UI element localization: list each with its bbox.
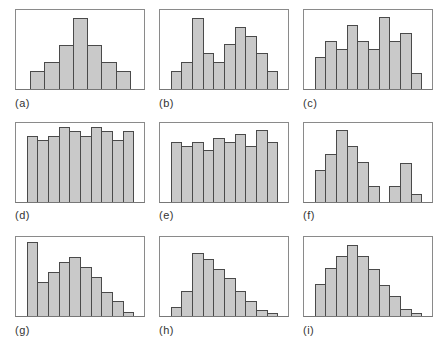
histogram-bar: [267, 142, 279, 202]
histogram-bar: [411, 73, 423, 89]
histogram-bar: [59, 45, 74, 89]
bars-f: [304, 123, 432, 202]
histogram-frame-d: [15, 122, 145, 203]
histogram-frame-f: [303, 122, 433, 203]
bars-a: [16, 10, 144, 89]
histogram-frame-i: [303, 236, 433, 317]
panel-label-h: (h): [159, 324, 174, 336]
bars-b: [160, 10, 288, 89]
panel-label-e: (e): [159, 209, 174, 221]
bars-g: [16, 237, 144, 316]
histogram-bar: [267, 71, 279, 89]
panel-label-f: (f): [303, 209, 315, 221]
histogram-bar: [123, 131, 135, 202]
bars-d: [16, 123, 144, 202]
histogram-frame-c: [303, 9, 433, 90]
histogram-bar: [30, 71, 45, 89]
histogram-bar: [44, 62, 59, 89]
bars-e: [160, 123, 288, 202]
histogram-bar: [267, 313, 279, 316]
panel-label-c: (c): [303, 97, 317, 109]
histogram-bar: [411, 313, 423, 316]
panel-label-a: (a): [15, 97, 30, 109]
panel-label-g: (g): [15, 324, 30, 336]
histogram-bar: [101, 62, 116, 89]
histogram-bar: [411, 194, 423, 202]
panel-label-i: (i): [303, 324, 314, 336]
histogram-bar: [116, 71, 131, 89]
histogram-frame-h: [159, 236, 289, 317]
histogram-bar: [87, 45, 102, 89]
histogram-frame-g: [15, 236, 145, 317]
bars-h: [160, 237, 288, 316]
histogram-bar: [123, 312, 135, 316]
bars-c: [304, 10, 432, 89]
histogram-bar: [73, 18, 88, 89]
panel-label-b: (b): [159, 97, 174, 109]
histogram-bar: [368, 186, 380, 202]
panel-label-d: (d): [15, 209, 30, 221]
histogram-frame-a: [15, 9, 145, 90]
histogram-frame-b: [159, 9, 289, 90]
histogram-frame-e: [159, 122, 289, 203]
bars-i: [304, 237, 432, 316]
